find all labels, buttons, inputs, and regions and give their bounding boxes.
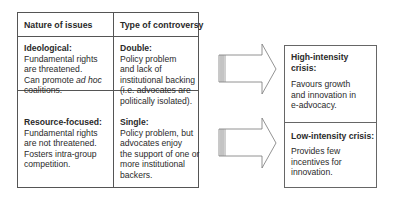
- text-line: institutional backing: [120, 75, 195, 86]
- text-line: crisis:: [291, 63, 377, 74]
- text-line: are threatened.: [24, 64, 102, 75]
- low-intensity-title: Low-intensity crisis:: [291, 131, 377, 142]
- arrow-right-icon: [218, 43, 278, 95]
- table-column-divider: [113, 12, 114, 188]
- text-line: Provides few: [291, 146, 377, 157]
- row-double: Double: Policy problem and lack of insti…: [120, 43, 195, 107]
- row-single: Single: Policy problem, but advocates en…: [120, 117, 199, 181]
- text-line: coalitions.: [24, 85, 102, 96]
- high-intensity-title: High-intensity crisis:: [291, 52, 377, 73]
- text-line: Fundamental rights: [24, 54, 102, 65]
- row-resource-focused: Resource-focused: Fundamental rights are…: [24, 117, 102, 170]
- text-line: innovation.: [291, 167, 377, 178]
- text-line: politically isolated).: [120, 96, 195, 107]
- ideological-title: Ideological:: [24, 43, 102, 54]
- text-line: (i.e. advocates are: [120, 85, 195, 96]
- double-title: Double:: [120, 43, 195, 54]
- text-line: Policy problem, but: [120, 128, 199, 139]
- row-ideological: Ideological: Fundamental rights are thre…: [24, 43, 102, 96]
- text-line: Low-intensity crisis:: [291, 131, 377, 142]
- text-line: Fundamental rights: [24, 128, 102, 139]
- text-line: Favours growth: [291, 79, 377, 90]
- text-line: advocates enjoy: [120, 138, 199, 149]
- text-line: competition.: [24, 159, 102, 170]
- text-line: e-advocacy.: [291, 100, 377, 111]
- text-line: backers.: [120, 170, 199, 181]
- single-title: Single:: [120, 117, 199, 128]
- text-line: incentives for: [291, 157, 377, 168]
- table-header-divider: [17, 36, 199, 37]
- low-intensity-description: Provides few incentives for innovation.: [291, 146, 377, 178]
- text-line: and innovation in: [291, 90, 377, 101]
- italic-text: ad hoc: [76, 75, 102, 85]
- text-fragment: Can promote: [24, 75, 76, 85]
- high-intensity-crisis-box: High-intensity crisis: Favours growth an…: [284, 45, 377, 123]
- text-line: High-intensity: [291, 52, 377, 63]
- arrow-right-icon: [218, 117, 278, 169]
- high-intensity-description: Favours growth and innovation in e-advoc…: [291, 79, 377, 111]
- text-line: more institutional: [120, 159, 199, 170]
- low-intensity-crisis-box: Low-intensity crisis: Provides few incen…: [284, 122, 377, 188]
- resource-focused-title: Resource-focused:: [24, 117, 102, 128]
- text-line: the support of one or: [120, 149, 199, 160]
- text-line: Can promote ad hoc: [24, 75, 102, 86]
- text-line: Policy problem: [120, 54, 195, 65]
- header-type-of-controversy: Type of controversy: [120, 20, 203, 31]
- header-nature-of-issues: Nature of issues: [24, 20, 92, 31]
- text-line: are not threatened.: [24, 138, 102, 149]
- text-line: Fosters intra-group: [24, 149, 102, 160]
- text-line: and lack of: [120, 64, 195, 75]
